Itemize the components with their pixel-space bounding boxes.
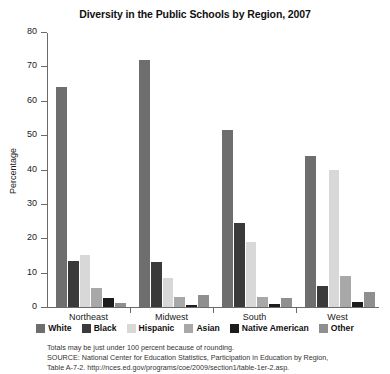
y-axis-tick: 0 (41, 307, 47, 308)
bar-group (305, 33, 376, 307)
x-axis-group-label-midwest: Midwest (130, 312, 213, 322)
y-axis-tick-label: 30 (27, 198, 37, 208)
bar (222, 130, 233, 307)
x-axis-group-label-northeast: Northeast (47, 312, 130, 322)
legend-item-asian[interactable]: Asian (184, 323, 219, 333)
legend-label: Native American (242, 323, 309, 333)
y-axis-tick-label: 40 (27, 164, 37, 174)
legend-label: Black (94, 323, 117, 333)
y-axis-tick: 80 (41, 32, 47, 33)
y-axis-line (47, 33, 48, 308)
bar (329, 170, 340, 308)
legend-swatch-icon (319, 324, 328, 333)
bar (281, 298, 292, 307)
footnote-line: Totals may be just under 100 percent bec… (47, 343, 387, 353)
legend-label: Other (331, 323, 354, 333)
legend-label: Asian (196, 323, 219, 333)
chart-legend: WhiteBlackHispanicAsianNative AmericanOt… (0, 323, 390, 333)
bar-group (56, 33, 127, 307)
bar (234, 223, 245, 307)
bar (139, 60, 150, 308)
plot-area: 01020304050607080 (47, 33, 379, 308)
y-axis-tick-label: 10 (27, 267, 37, 277)
y-axis-title-label: Percentage (8, 147, 18, 193)
diversity-bar-chart: Diversity in the Public Schools by Regio… (0, 0, 390, 374)
chart-footnote: Totals may be just under 100 percent bec… (47, 343, 387, 374)
y-axis-tick: 70 (41, 66, 47, 67)
bar (163, 278, 174, 307)
legend-item-black[interactable]: Black (82, 323, 117, 333)
legend-swatch-icon (36, 324, 45, 333)
bar (305, 156, 316, 307)
bar (246, 242, 257, 307)
bar (56, 87, 67, 307)
legend-label: Hispanic (139, 323, 175, 333)
y-axis-tick: 50 (41, 135, 47, 136)
y-axis-tick-label: 0 (32, 301, 37, 311)
bar (174, 297, 185, 307)
bar (186, 305, 197, 307)
legend-swatch-icon (184, 324, 193, 333)
bar (80, 255, 91, 307)
bar (317, 286, 328, 307)
footnote-line: Table A-7-2. http://nces.ed.gov/programs… (47, 363, 387, 373)
y-axis-tick-label: 50 (27, 129, 37, 139)
legend-item-hispanic[interactable]: Hispanic (127, 323, 175, 333)
x-axis-group-label-south: South (213, 312, 296, 322)
y-axis-tick: 10 (41, 273, 47, 274)
bar (269, 304, 280, 307)
footnote-line: SOURCE: National Center for Education St… (47, 353, 387, 363)
legend-label: White (48, 323, 71, 333)
bar (352, 302, 363, 307)
y-axis-tick-label: 20 (27, 232, 37, 242)
bar (257, 297, 268, 307)
y-axis-tick-label: 80 (27, 26, 37, 36)
y-axis-tick: 30 (41, 204, 47, 205)
y-axis-tick: 40 (41, 170, 47, 171)
y-axis-tick: 60 (41, 101, 47, 102)
legend-swatch-icon (230, 324, 239, 333)
bar (151, 262, 162, 307)
y-axis-tick-label: 60 (27, 95, 37, 105)
legend-swatch-icon (127, 324, 136, 333)
legend-item-other[interactable]: Other (319, 323, 354, 333)
bar (68, 261, 79, 307)
y-axis-tick: 20 (41, 238, 47, 239)
legend-swatch-icon (82, 324, 91, 333)
chart-title: Diversity in the Public Schools by Regio… (0, 8, 390, 20)
y-axis-title: Percentage (6, 33, 20, 308)
bar (115, 303, 126, 307)
bar (103, 298, 114, 307)
bar (340, 276, 351, 307)
bar-group (139, 33, 210, 307)
legend-item-white[interactable]: White (36, 323, 71, 333)
bar (198, 295, 209, 307)
legend-item-native-american[interactable]: Native American (230, 323, 309, 333)
bar (364, 292, 375, 307)
bar-group (222, 33, 293, 307)
x-axis-group-label-west: West (296, 312, 379, 322)
bar (91, 288, 102, 307)
y-axis-tick-label: 70 (27, 60, 37, 70)
